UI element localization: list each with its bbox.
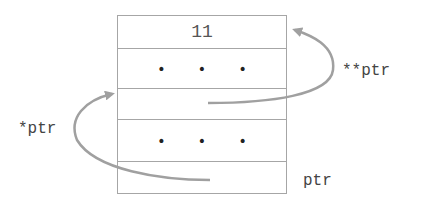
double-pointer-arrow — [208, 30, 333, 103]
single-pointer-label: *ptr — [18, 120, 56, 138]
ptr-label: ptr — [303, 172, 332, 190]
single-pointer-arrow — [75, 94, 210, 180]
pointer-diagram: 11 • • • • • • **ptr *ptr ptr — [0, 0, 421, 205]
arrows-layer — [0, 0, 421, 205]
double-pointer-label: **ptr — [342, 62, 390, 80]
